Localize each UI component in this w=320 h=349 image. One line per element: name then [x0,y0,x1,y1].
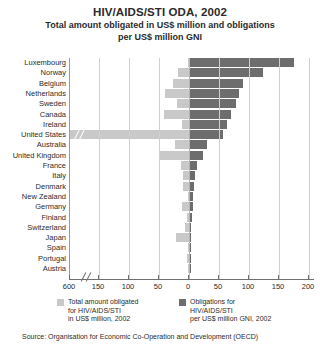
category-label: Germany [0,202,66,211]
gridline [279,58,280,279]
x-axis-ticklabel: 150 [83,282,113,291]
bar-per-gni [189,161,197,170]
category-label: Austria [0,264,66,273]
category-label: Finland [0,213,66,222]
x-axis-ticklabel: 0 [173,282,203,291]
source-note: Source: Organisation for Economic Co-Ope… [22,333,258,340]
bar-total-obligated [182,202,189,211]
x-axis-tick [158,275,159,280]
category-label: United Kingdom [0,151,66,160]
gridline [159,58,160,279]
chart-legend: Total amount obligated for HIV/AIDS/STI … [57,298,317,328]
category-label: Netherlands [0,89,66,98]
gridline [219,58,220,279]
category-label: Japan [0,233,66,242]
category-axis-labels: LuxembourgNorwayBelgiumNetherlandsSweden… [0,58,66,279]
gridline [189,58,190,279]
bar-total-obligated [177,99,189,108]
chart-subtitle-line1: Total amount obligated in US$ million an… [0,20,320,31]
x-axis-tick [98,275,99,280]
x-axis-ticklabel: 200 [293,282,320,291]
bar-row [70,264,314,275]
category-label: Italy [0,171,66,180]
category-label: France [0,161,66,170]
gridline [309,58,310,279]
category-label: Belgium [0,79,66,88]
legend-item-total-obligated: Total amount obligated for HIV/AIDS/STI … [57,298,138,324]
bar-total-obligated [178,68,189,77]
legend-swatch-light-icon [57,299,64,306]
bar-per-gni [189,120,227,129]
plot-area [69,58,314,279]
bar-total-obligated [181,161,189,170]
category-label: Norway [0,68,66,77]
x-axis-tick [278,275,279,280]
x-axis-ticklabel: 100 [233,282,263,291]
legend-item-0-line3: in US$ million, 2002 [68,315,138,324]
x-axis-tick [308,275,309,280]
bar-total-obligated [165,89,189,98]
bar-per-gni [189,99,236,108]
gridline [129,58,130,279]
legend-item-0-line1: Total amount obligated [68,298,138,307]
category-label: Australia [0,140,66,149]
legend-swatch-dark-icon [179,299,186,306]
category-label: New Zealand [0,192,66,201]
legend-item-1-line2: HIV/AIDS/STI [190,307,271,316]
category-label: Denmark [0,182,66,191]
chart-container: HIV/AIDS/STI ODA, 2002 Total amount obli… [0,0,320,349]
chart-title-block: HIV/AIDS/STI ODA, 2002 Total amount obli… [0,6,320,43]
category-label: Sweden [0,99,66,108]
bar-total-obligated [182,120,189,129]
x-axis-tick [128,275,129,280]
bar-per-gni [189,89,239,98]
x-axis-ticklabel: 50 [203,282,233,291]
category-label: Luxembourg [0,58,66,67]
x-axis-tick [248,275,249,280]
bar-rows [70,58,314,279]
bar-total-obligated [176,233,189,242]
bar-per-gni [189,110,231,119]
gridline [99,58,100,279]
x-axis-ticklabel-break: 600 [54,282,84,291]
legend-item-1-line3: per US$ million GNI, 2002 [190,315,271,324]
legend-item-0-line2: for HIV/AIDS/STI [68,307,138,316]
x-axis-tick [69,275,70,280]
bar-per-gni [189,79,243,88]
bar-total-obligated [164,110,189,119]
category-label: Spain [0,243,66,252]
gridline [249,58,250,279]
x-axis-break-icon [81,272,93,282]
category-label: United States [0,130,66,139]
chart-title: HIV/AIDS/STI ODA, 2002 [0,6,320,19]
bar-total-obligated [175,140,189,149]
bar-per-gni [189,140,207,149]
x-axis-tick [188,275,189,280]
category-label: Portugal [0,254,66,263]
category-label: Ireland [0,120,66,129]
x-axis-tick [218,275,219,280]
category-label: Canada [0,110,66,119]
category-label: Switzerland [0,223,66,232]
legend-item-1-line1: Obligations for [190,298,271,307]
x-axis-ticklabel: 50 [143,282,173,291]
bar-total-obligated [159,151,189,160]
bar-total-obligated [173,79,189,88]
chart-subtitle-line2: per US$ million GNI [0,32,320,43]
bar-per-gni [189,151,203,160]
legend-item-per-gni: Obligations for HIV/AIDS/STI per US$ mil… [179,298,271,324]
x-axis-ticklabel: 100 [113,282,143,291]
bar-per-gni [189,68,263,77]
x-axis-ticklabel: 150 [263,282,293,291]
